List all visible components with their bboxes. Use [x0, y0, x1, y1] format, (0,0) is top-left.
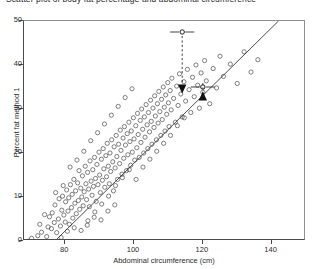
scatter-point [189, 110, 193, 114]
scatter-point [88, 159, 92, 163]
scatter-point [168, 133, 172, 137]
x-tick-label: 80 [49, 245, 79, 254]
scatter-point [60, 208, 64, 212]
scatter-point [108, 151, 112, 155]
scatter-point [106, 164, 110, 168]
scatter-point [96, 183, 100, 187]
scatter-point [100, 178, 104, 182]
scatter-point [177, 72, 181, 76]
scatter-point [109, 169, 113, 173]
scatter-point [52, 220, 56, 224]
y-tick-label: 0 [0, 235, 22, 244]
scatter-point [128, 139, 132, 143]
scatter-point [134, 177, 138, 181]
scatter-point [127, 120, 131, 124]
scatter-point [175, 124, 179, 128]
scatter-point [39, 230, 43, 234]
scatter-point [83, 164, 87, 168]
scatter-point [249, 70, 253, 74]
scatter-point [156, 121, 160, 125]
scatter-point [130, 150, 134, 154]
scatter-point [152, 125, 156, 129]
scatter-point [93, 176, 97, 180]
scatter-point [58, 224, 62, 228]
scatter-point [155, 102, 159, 106]
scatter-point [87, 187, 91, 191]
scatter-point [89, 139, 93, 143]
scatter-point [121, 136, 125, 140]
scatter-point [93, 210, 97, 214]
scatter-point [166, 81, 170, 85]
scatter-point [116, 104, 120, 108]
x-tick-mark [64, 240, 65, 244]
scatter-point [138, 118, 142, 122]
y-tick-label: 20 [0, 147, 22, 156]
scatter-point [62, 213, 66, 217]
scatter-point [69, 205, 73, 209]
scatter-point [155, 149, 159, 153]
scatter-point [132, 137, 136, 141]
scatter-point [157, 89, 161, 93]
scatter-point [176, 103, 180, 107]
scatter-point [119, 148, 123, 152]
figure-container: Scatter plot of body fat percentage and … [0, 0, 318, 269]
scatter-point [55, 231, 59, 235]
annotation-lower-marker [191, 83, 215, 100]
scatter-point [194, 63, 198, 67]
scatter-point [125, 132, 129, 136]
x-tick-mark [133, 240, 134, 244]
scatter-point [202, 59, 206, 63]
scatter-point [81, 204, 85, 208]
scatter-point [49, 227, 53, 231]
scatter-point [82, 149, 86, 153]
scatter-point [106, 209, 110, 213]
scatter-point [134, 124, 138, 128]
scatter-point [115, 154, 119, 158]
y-tick-label: 50 [0, 15, 22, 24]
scatter-point [170, 76, 174, 80]
scatter-point [142, 151, 146, 155]
scatter-point [50, 211, 54, 215]
scatter-point [235, 81, 239, 85]
plot-frame [23, 20, 305, 240]
scatter-point [92, 155, 96, 159]
scatter-point [135, 146, 139, 150]
scatter-point [71, 216, 75, 220]
scatter-point [123, 143, 127, 147]
scatter-point [109, 113, 113, 117]
scatter-point [63, 220, 67, 224]
scatter-point [204, 79, 208, 83]
scatter-point [64, 200, 68, 204]
scatter-point [122, 125, 126, 129]
scatter-point [105, 141, 109, 145]
scatter-point [113, 166, 117, 170]
scatter-point [97, 150, 101, 154]
scatter-point [149, 119, 153, 123]
scatter-point [68, 183, 72, 187]
scatter-point [70, 192, 74, 196]
scatter-point [192, 95, 196, 99]
scatter-point [168, 88, 172, 92]
scatter-point [29, 236, 33, 239]
y-tick-label: 30 [0, 103, 22, 112]
scatter-point [73, 189, 77, 193]
scatter-point [211, 66, 215, 70]
scatter-point [159, 97, 163, 101]
scatter-point [169, 108, 173, 112]
scatter-point [53, 203, 57, 207]
scatter-point [79, 186, 83, 190]
scatter-point [78, 207, 82, 211]
scatter-point [98, 191, 102, 195]
scatter-point [142, 115, 146, 119]
scatter-point [107, 182, 111, 186]
annotation-marker-circle [180, 30, 184, 34]
scatter-point [153, 114, 157, 118]
scatter-point [139, 140, 143, 144]
figure-caption-text: Scatter plot of body fat percentage and … [6, 0, 256, 4]
scatter-point [92, 215, 96, 219]
scatter-point [151, 106, 155, 110]
scatter-point [96, 131, 100, 135]
x-tick-mark [202, 240, 203, 244]
scatter-point [164, 93, 168, 97]
scatter-point [38, 222, 42, 226]
